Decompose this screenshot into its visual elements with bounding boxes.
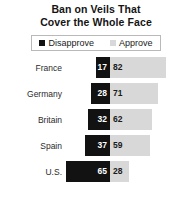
legend-label-approve: Approve: [119, 38, 153, 48]
chart-title-line-1: Ban on Veils That: [0, 3, 192, 16]
row-bars-france: 17 82: [68, 57, 192, 78]
row-label-britain: Britain: [0, 115, 68, 125]
legend-item-approve: Approve: [110, 38, 153, 48]
bar-disapprove-france: 17: [96, 57, 110, 78]
row-label-germany: Germany: [0, 89, 68, 99]
row-label-us: U.S.: [0, 167, 68, 177]
bar-value-disapprove-britain: 32: [98, 115, 107, 124]
bar-value-disapprove-spain: 37: [98, 141, 107, 150]
chart-plot-area: France 17 82 Germany 28 71: [0, 57, 192, 182]
bar-value-disapprove-germany: 28: [98, 89, 107, 98]
chart-title-line-2: Cover the Whole Face: [0, 16, 192, 29]
bar-value-disapprove-france: 17: [98, 63, 107, 72]
legend-swatch-disapprove-icon: [39, 40, 45, 46]
bar-value-approve-france: 82: [113, 63, 122, 72]
bar-disapprove-spain: 37: [85, 135, 110, 156]
legend-item-disapprove: Disapprove: [39, 38, 94, 48]
row-bars-us: 65 28: [68, 161, 192, 182]
bar-disapprove-germany: 28: [91, 83, 110, 104]
legend-box: Disapprove Approve: [31, 35, 160, 51]
table-row: France 17 82: [0, 57, 192, 78]
table-row: U.S. 65 28: [0, 161, 192, 182]
bar-value-approve-britain: 62: [113, 115, 122, 124]
table-row: Germany 28 71: [0, 83, 192, 104]
bar-approve-us: 28: [110, 161, 129, 182]
row-label-spain: Spain: [0, 141, 68, 151]
bar-approve-germany: 71: [110, 83, 158, 104]
table-row: Spain 37 59: [0, 135, 192, 156]
bar-approve-france: 82: [110, 57, 166, 78]
bar-value-approve-spain: 59: [113, 141, 122, 150]
bar-approve-britain: 62: [110, 109, 152, 130]
row-label-france: France: [0, 63, 68, 73]
bar-approve-spain: 59: [110, 135, 150, 156]
bar-value-disapprove-us: 65: [98, 167, 107, 176]
legend-swatch-approve-icon: [110, 40, 116, 46]
chart-legend: Disapprove Approve: [0, 35, 192, 51]
bar-disapprove-britain: 32: [88, 109, 110, 130]
row-bars-britain: 32 62: [68, 109, 192, 130]
bar-disapprove-us: 65: [66, 161, 110, 182]
row-bars-germany: 28 71: [68, 83, 192, 104]
bar-value-approve-germany: 71: [113, 89, 122, 98]
chart-title: Ban on Veils That Cover the Whole Face: [0, 0, 192, 29]
bar-value-approve-us: 28: [113, 167, 122, 176]
row-bars-spain: 37 59: [68, 135, 192, 156]
table-row: Britain 32 62: [0, 109, 192, 130]
chart-figure: Ban on Veils That Cover the Whole Face D…: [0, 0, 192, 213]
legend-label-disapprove: Disapprove: [48, 38, 94, 48]
